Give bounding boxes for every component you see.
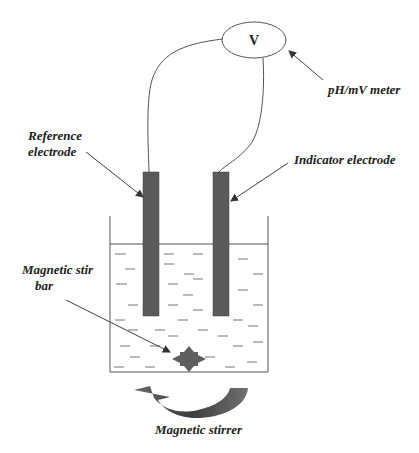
magnetic-stirrer-label: Magnetic stirrer [154, 422, 243, 437]
indicator-electrode [213, 172, 229, 316]
meter-label: pH/mV meter [327, 82, 401, 97]
reference-label-line2: electrode [28, 144, 77, 159]
indicator-label: Indicator electrode [293, 152, 396, 167]
indicator-wire [219, 58, 264, 172]
stir-bar-label-line2: bar [35, 278, 54, 293]
reference-electrode [143, 172, 159, 316]
indicator-pointer-arrow [231, 163, 288, 201]
reference-pointer-arrow [86, 152, 143, 197]
magnetic-stir-bar [172, 346, 206, 372]
meter-pointer-arrow [289, 51, 323, 80]
meter-symbol: V [249, 33, 259, 48]
stir-bar-label-line1: Magnetic stir [21, 262, 94, 277]
magnetic-stirrer-arrow [134, 386, 248, 418]
diagram-svg: V pH/mV meter Reference electrode Indica… [0, 0, 419, 453]
reference-wire [148, 39, 223, 172]
titration-setup-diagram: V pH/mV meter Reference electrode Indica… [0, 0, 419, 453]
reference-label-line1: Reference [27, 128, 82, 143]
